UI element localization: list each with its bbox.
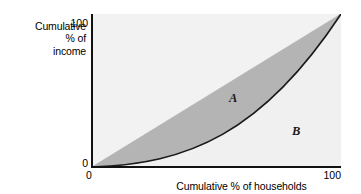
region-b-label: B	[292, 124, 300, 139]
lorenz-curve-figure: Cumulative % of income 100 0 0 100 Cumul…	[0, 0, 361, 194]
region-a-label: A	[229, 91, 237, 106]
y-axis-title-line-3: income	[0, 45, 86, 57]
x-axis-title: Cumulative % of households	[142, 180, 341, 192]
y-axis-tick-max: 100	[62, 17, 88, 29]
y-axis-tick-min: 0	[62, 157, 88, 169]
y-axis-title-line-2: % of	[0, 32, 86, 44]
x-axis-line	[91, 166, 341, 168]
plot-area	[92, 14, 341, 167]
plot-canvas	[92, 14, 341, 167]
y-axis-line	[91, 14, 93, 168]
x-axis-tick-min: 0	[86, 169, 92, 181]
